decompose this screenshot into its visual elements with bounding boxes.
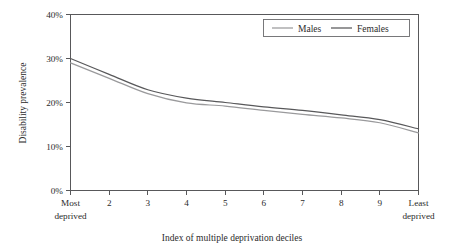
plot-frame	[71, 15, 419, 191]
legend-label-females: Females	[357, 24, 389, 34]
series-line-males	[71, 63, 419, 133]
series-line-females	[71, 59, 419, 129]
y-axis-tick-labels: 0% 10% 20% 30% 40%	[46, 10, 63, 196]
x-axis-ticks	[71, 191, 419, 196]
x-tick-label-least-deprived-line2: deprived	[402, 211, 435, 221]
series-group	[71, 59, 419, 133]
x-axis-tick-labels: Most deprived 2 3 4 5 6 7 8 9 Least depr…	[54, 198, 435, 221]
y-tick-label-0: 0%	[51, 186, 64, 196]
chart-container: 0% 10% 20% 30% 40% Most deprived 2 3 4	[0, 0, 450, 249]
y-axis-ticks	[66, 15, 71, 191]
x-tick-label-7: 7	[300, 198, 305, 208]
x-tick-label-least-deprived-line1: Least	[409, 198, 429, 208]
x-tick-label-6: 6	[262, 198, 267, 208]
x-axis-title: Index of multiple deprivation deciles	[162, 233, 303, 243]
x-tick-label-most-deprived-line1: Most	[61, 198, 80, 208]
disability-prevalence-line-chart: 0% 10% 20% 30% 40% Most deprived 2 3 4	[0, 0, 450, 249]
x-tick-label-5: 5	[223, 198, 228, 208]
x-tick-label-2: 2	[107, 198, 112, 208]
y-tick-label-40: 40%	[46, 10, 63, 20]
legend-label-males: Males	[298, 24, 322, 34]
x-tick-label-9: 9	[378, 198, 383, 208]
x-tick-label-8: 8	[339, 198, 344, 208]
x-tick-label-4: 4	[184, 198, 189, 208]
x-tick-label-most-deprived-line2: deprived	[54, 211, 87, 221]
legend: Males Females	[264, 20, 410, 37]
y-tick-label-10: 10%	[46, 142, 63, 152]
y-tick-label-20: 20%	[46, 98, 63, 108]
x-tick-label-3: 3	[146, 198, 151, 208]
y-axis-title: Disability prevalence	[18, 63, 28, 144]
y-tick-label-30: 30%	[46, 54, 63, 64]
